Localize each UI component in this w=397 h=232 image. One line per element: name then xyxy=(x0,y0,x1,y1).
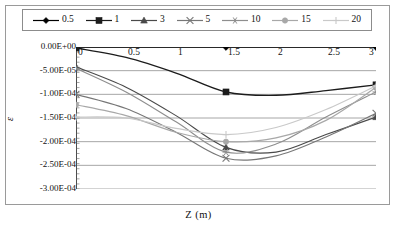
legend-label: 10 xyxy=(251,15,261,25)
legend-marker-plus-icon xyxy=(323,15,349,26)
x-tick-label: 0 xyxy=(78,48,83,58)
series-5 xyxy=(76,91,376,162)
y-tick-label: 0.00E+00 xyxy=(14,42,76,51)
x-tick-label: 2 xyxy=(278,48,283,58)
legend-entry-20[interactable]: 20 xyxy=(323,15,362,26)
x-tick-label: 3 xyxy=(369,48,374,58)
plot-area xyxy=(76,47,376,189)
legend-label: 20 xyxy=(352,15,362,25)
legend-entry-5[interactable]: 5 xyxy=(177,15,211,26)
y-axis-tick-labels: 0.00E+00-5.00E-05-1.00E-04-1.50E-04-2.00… xyxy=(8,0,76,232)
x-tick-label: 0.5 xyxy=(128,48,140,58)
x-tick-label: 1.5 xyxy=(228,48,240,58)
y-tick-label: -2.00E-04 xyxy=(14,137,76,146)
legend-marker-cross-icon xyxy=(177,15,203,26)
legend-label: 5 xyxy=(206,15,211,25)
legend-label: 1 xyxy=(115,15,120,25)
chart-screenshot: 0.5135101520 0.00E+00-5.00E-05-1.00E-04-… xyxy=(0,0,397,232)
y-tick-label: -5.00E-05 xyxy=(14,66,76,75)
y-tick-label: -1.00E-04 xyxy=(14,89,76,98)
y-tick-label: -3.00E-04 xyxy=(14,184,76,193)
legend-entry-10[interactable]: 10 xyxy=(222,15,261,26)
y-tick-label: -1.50E-04 xyxy=(14,113,76,122)
x-tick-label: 1 xyxy=(178,48,183,58)
x-axis-title: Z (m) xyxy=(0,209,397,220)
plot-svg xyxy=(76,47,376,189)
legend-label: 15 xyxy=(301,15,311,25)
legend-marker-circle-icon xyxy=(272,15,298,26)
series-line xyxy=(76,94,376,160)
x-tick-label: 2.5 xyxy=(328,48,340,58)
legend-entry-1[interactable]: 1 xyxy=(86,15,120,26)
y-axis-title: ε xyxy=(4,117,15,121)
legend-label: 3 xyxy=(160,15,165,25)
legend-marker-square-icon xyxy=(86,15,112,26)
legend-marker-triangle-icon xyxy=(131,15,157,26)
legend-marker-asterisk-icon xyxy=(222,15,248,26)
y-tick-label: -2.50E-04 xyxy=(14,160,76,169)
legend-entry-3[interactable]: 3 xyxy=(131,15,165,26)
legend-entry-15[interactable]: 15 xyxy=(272,15,311,26)
